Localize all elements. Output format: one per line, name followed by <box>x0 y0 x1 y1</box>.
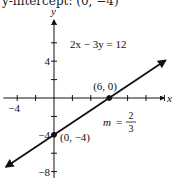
point-label-x-intercept: (6, 0) <box>93 80 117 93</box>
y-tick-label: −8 <box>38 166 50 178</box>
y-tick-label: 4 <box>45 55 51 67</box>
line-chart: xy−44−4−8(6, 0)(0, −4)2x − 3y = 12m=23 <box>0 0 175 182</box>
graph-line <box>6 61 165 167</box>
slope-equals: = <box>116 116 122 128</box>
equation-label: 2x − 3y = 12 <box>70 38 126 50</box>
slope-numerator: 2 <box>129 110 134 121</box>
slope-m-label: m <box>103 116 111 128</box>
x-tick-label: −4 <box>8 102 20 114</box>
data-point <box>51 132 57 138</box>
x-axis-label: x <box>166 92 172 104</box>
slope-denominator: 3 <box>129 123 134 134</box>
graph-figure: y-intercept: (0, −4) xy−44−4−8(6, 0)(0, … <box>0 0 175 182</box>
caption-text: y-intercept: (0, −4) <box>2 0 119 8</box>
point-label-y-intercept: (0, −4) <box>60 131 90 144</box>
data-point <box>106 95 112 101</box>
